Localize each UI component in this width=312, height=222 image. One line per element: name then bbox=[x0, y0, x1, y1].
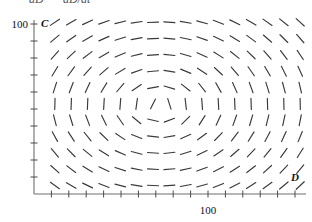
field-arrow bbox=[52, 132, 57, 142]
field-arrow bbox=[168, 99, 171, 110]
field-arrow bbox=[99, 150, 108, 156]
field-arrow bbox=[148, 119, 159, 121]
field-arrow bbox=[164, 169, 175, 170]
field-arrow bbox=[70, 115, 73, 126]
field-arrow bbox=[263, 19, 272, 25]
field-arrow bbox=[51, 149, 58, 157]
field-arrow bbox=[266, 115, 269, 126]
field-arrow bbox=[164, 185, 175, 186]
field-arrow bbox=[131, 185, 142, 187]
field-arrow bbox=[180, 185, 191, 187]
field-arrow bbox=[198, 133, 207, 140]
field-arrow bbox=[214, 167, 224, 172]
field-arrow bbox=[180, 21, 191, 23]
field-arrow bbox=[247, 51, 255, 59]
field-arrow bbox=[181, 84, 190, 91]
field-arrow bbox=[131, 168, 142, 170]
field-arrow bbox=[99, 52, 108, 58]
field-arrow bbox=[84, 67, 91, 75]
field-arrow bbox=[51, 35, 59, 42]
field-arrow bbox=[131, 22, 142, 24]
field-arrow bbox=[283, 115, 285, 126]
field-arrow bbox=[164, 70, 175, 72]
field-arrow bbox=[231, 67, 238, 75]
field-arrow bbox=[131, 38, 142, 40]
field-arrow bbox=[263, 35, 271, 42]
field-arrow bbox=[215, 133, 223, 141]
field-arrow bbox=[86, 115, 90, 125]
x-axis-tick-label-100: 100 bbox=[200, 204, 217, 216]
field-arrow bbox=[214, 52, 223, 58]
field-arrow bbox=[250, 115, 253, 126]
field-arrow bbox=[202, 98, 203, 109]
field-arrow bbox=[99, 184, 109, 188]
field-arrow bbox=[115, 37, 125, 40]
field-arrow bbox=[116, 68, 125, 74]
field-arrow bbox=[180, 168, 191, 170]
field-arrow bbox=[52, 67, 58, 76]
field-arrow bbox=[68, 67, 74, 76]
field-arrow bbox=[101, 83, 107, 92]
field-arrow bbox=[132, 117, 140, 124]
field-arrow bbox=[67, 35, 76, 41]
field-arrow bbox=[249, 82, 253, 92]
field-arrow bbox=[280, 35, 288, 43]
field-arrow bbox=[297, 50, 303, 59]
axes-group bbox=[31, 20, 307, 198]
field-arrow bbox=[197, 150, 207, 155]
field-arrow bbox=[164, 86, 175, 89]
field-arrow bbox=[263, 165, 271, 172]
field-arrow bbox=[230, 36, 239, 42]
field-arrow bbox=[115, 21, 126, 24]
field-arrow bbox=[83, 166, 92, 172]
field-arrow bbox=[281, 66, 286, 76]
field-arrow bbox=[148, 87, 159, 89]
field-arrow bbox=[231, 51, 240, 58]
field-arrow bbox=[233, 115, 237, 125]
field-arrow bbox=[148, 152, 159, 153]
field-arrow bbox=[248, 67, 254, 76]
field-arrow bbox=[117, 116, 123, 125]
field-arrow bbox=[199, 116, 205, 125]
field-arrow bbox=[185, 98, 186, 109]
field-arrow bbox=[67, 183, 76, 189]
field-arrow bbox=[282, 82, 285, 93]
field-arrow bbox=[69, 82, 73, 92]
field-arrow bbox=[66, 20, 76, 25]
field-arrow bbox=[197, 21, 208, 24]
field-arrow bbox=[132, 85, 141, 91]
field-arrow bbox=[67, 149, 75, 157]
field-arrow bbox=[100, 68, 108, 75]
field-arrow bbox=[299, 82, 302, 93]
field-arrow bbox=[83, 183, 93, 188]
field-arrow bbox=[280, 165, 288, 173]
field-arrow bbox=[148, 38, 159, 39]
field-arrow bbox=[99, 36, 109, 40]
field-arrow bbox=[247, 35, 256, 42]
field-arrow bbox=[246, 19, 255, 25]
field-arrow bbox=[247, 149, 255, 157]
field-arrow bbox=[164, 118, 174, 122]
field-arrow bbox=[263, 182, 272, 188]
field-arrow bbox=[83, 149, 92, 156]
field-arrow bbox=[85, 83, 90, 93]
field-arrow bbox=[180, 53, 191, 56]
field-arrow bbox=[136, 98, 138, 109]
field-arrow bbox=[230, 20, 240, 25]
field-arrow bbox=[248, 132, 254, 141]
field-arrow bbox=[214, 150, 223, 156]
field-arrow bbox=[164, 38, 175, 39]
field-arrow bbox=[230, 183, 240, 188]
field-arrow bbox=[181, 134, 191, 139]
field-arrow bbox=[102, 115, 107, 125]
field-arrow bbox=[296, 19, 304, 26]
y-axis-label: C bbox=[41, 17, 49, 29]
field-arrow bbox=[282, 132, 287, 142]
field-arrow bbox=[115, 53, 125, 57]
field-arrow bbox=[213, 183, 223, 187]
field-arrow bbox=[231, 149, 239, 156]
field-arrow bbox=[231, 132, 238, 141]
field-arrow bbox=[99, 20, 109, 24]
field-arrow bbox=[115, 167, 125, 170]
field-arrow bbox=[164, 152, 175, 153]
